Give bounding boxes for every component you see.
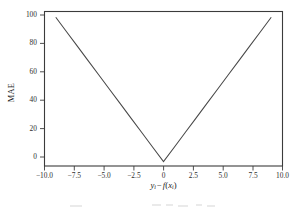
axis-frame [45,12,283,167]
y-tick-marks [40,15,45,157]
y-tick-label-4: 80 [8,40,37,47]
y-axis-label: MAE [7,73,16,113]
x-tick-label-3: −2.5 [127,172,140,179]
x-tick-label-2: −5.0 [97,172,110,179]
x-tick-label-8: 10.0 [276,172,289,179]
figure-mae-loss-plot: −10.0 −7.5 −5.0 −2.5 0 2.5 5.0 7.5 10.0 … [0,0,302,209]
x-tick-label-7: 7.5 [248,172,257,179]
mae-data-line [56,17,271,161]
x-tick-label-6: 5.0 [219,172,228,179]
y-tick-label-5: 100 [8,11,37,18]
x-axis-label-operator: − [156,180,163,190]
y-tick-label-1: 20 [8,125,37,132]
x-tick-label-0: −10.0 [36,172,53,179]
x-axis-label-close-paren: ) [174,180,177,190]
x-tick-label-5: 2.5 [189,172,198,179]
y-tick-label-0: 0 [8,153,37,160]
x-tick-label-4: 0 [162,172,166,179]
x-axis-label: yi−f(xi) [44,180,283,190]
scan-artifact-strip [0,200,302,209]
x-tick-marks [45,166,283,171]
x-tick-label-1: −7.5 [68,172,81,179]
